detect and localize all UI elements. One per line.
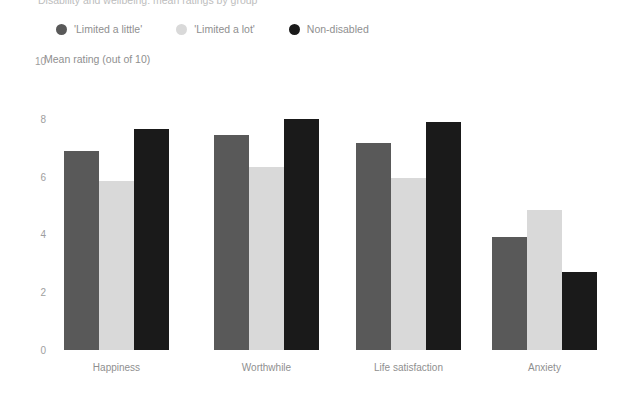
bar-chart: Disability and wellbeing: mean ratings b…	[0, 0, 627, 394]
bar[interactable]	[249, 167, 284, 351]
bar[interactable]	[391, 178, 426, 350]
bar[interactable]	[64, 151, 99, 350]
bar[interactable]	[527, 210, 562, 350]
bar[interactable]	[134, 129, 169, 350]
bar[interactable]	[492, 237, 527, 350]
bar[interactable]	[214, 135, 249, 350]
bar[interactable]	[356, 143, 391, 350]
plot-area: HappinessWorthwhileLife satisfactionAnxi…	[0, 0, 627, 394]
x-axis-category-label: Worthwhile	[242, 362, 291, 373]
x-axis-category-label: Life satisfaction	[374, 362, 443, 373]
x-axis-category-label: Anxiety	[528, 362, 561, 373]
x-axis-category-label: Happiness	[93, 362, 140, 373]
bar[interactable]	[284, 119, 319, 350]
bar[interactable]	[426, 122, 461, 350]
bar[interactable]	[99, 181, 134, 350]
bar[interactable]	[562, 272, 597, 350]
